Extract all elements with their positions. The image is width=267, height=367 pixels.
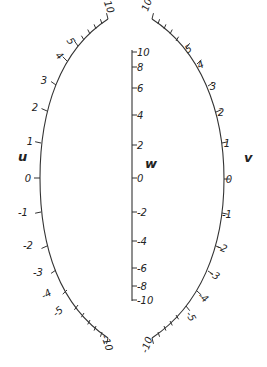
u-tick [63,57,67,61]
w-tick-label: 6 [137,83,143,94]
w-scale-label: w [145,156,158,171]
u-tick [51,82,56,85]
v-tick-label: 3 [210,81,216,92]
u-tick-label: 10 [102,0,117,15]
u-tick [81,36,84,40]
u-tick [35,212,41,213]
u-scale-ticks: 10543210-1-2-3-4-5-10 [18,0,117,352]
v-tick-label: 4 [195,58,205,71]
u-tick-label: 4 [53,49,65,61]
v-tick [152,13,153,19]
u-tick-label: -4 [39,287,53,302]
v-scale: 10543210-1-2-3-4-5-10 v [139,0,253,354]
u-tick [35,142,41,143]
v-tick-label: -2 [216,241,229,255]
u-tick-label: 0 [25,173,31,184]
v-tick-label: 2 [218,107,224,118]
u-tick [88,30,90,34]
nomogram-diagram: 10543210-1-2-3-4-5-10 u 1086420-2-4-6-8-… [0,0,267,367]
u-scale-curve [40,19,108,338]
u-tick-label: 3 [41,75,47,86]
u-tick [42,109,47,111]
u-tick-label: 2 [32,102,38,113]
v-tick [186,306,190,311]
u-tick-label: -3 [33,267,43,278]
u-tick-label: 5 [65,35,78,47]
w-scale: 1086420-2-4-6-8-10 w [132,47,158,306]
w-tick-label: -6 [137,263,147,274]
w-tick-label: -8 [137,281,147,292]
w-tick-label: -2 [137,207,147,218]
v-scale-curve [152,19,224,338]
u-scale-label: u [18,149,27,164]
u-scale: 10543210-1-2-3-4-5-10 u [18,0,117,352]
v-tick-label: 5 [183,43,194,56]
w-tick-label: 4 [137,110,143,121]
u-tick-label: 1 [27,136,33,147]
w-tick-label: 8 [137,62,143,73]
w-tick-label: -10 [137,295,153,306]
u-tick-label: -2 [23,240,33,251]
w-tick-label: 2 [137,140,143,151]
u-tick-label: -5 [50,304,65,319]
w-scale-ticks: 1086420-2-4-6-8-10 [132,47,153,306]
u-tick-label: -10 [99,333,115,352]
v-tick-label: 0 [226,174,232,185]
v-tick-label: -5 [184,309,199,323]
v-tick-label: 1 [224,138,230,149]
v-tick-label: -3 [208,268,222,283]
u-tick-label: -1 [18,207,28,218]
v-tick-label: 10 [139,0,154,13]
v-tick-label: -1 [222,209,232,220]
w-tick-label: 0 [137,173,143,184]
w-tick-label: 10 [137,47,150,58]
w-tick-label: -4 [137,236,147,247]
u-tick [42,246,47,248]
v-scale-label: v [244,150,253,165]
